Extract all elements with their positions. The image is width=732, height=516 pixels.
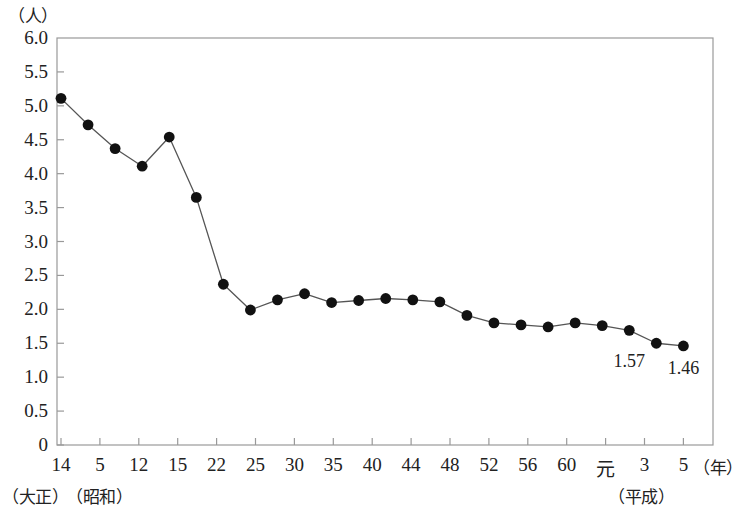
x-axis-unit-label: （年）: [693, 454, 732, 479]
data-point-marker: [651, 338, 662, 349]
y-axis-tick-label: 6.0: [0, 27, 48, 49]
data-point-annotation: 1.57: [614, 351, 646, 372]
x-axis-tick-label: 15: [168, 454, 187, 476]
data-point-marker: [191, 192, 202, 203]
data-point-marker: [516, 320, 527, 331]
data-point-marker: [326, 297, 337, 308]
x-axis-tick-label: 40: [363, 454, 382, 476]
era-label: （平成）: [608, 483, 674, 508]
x-axis-tick-label: 30: [285, 454, 304, 476]
data-point-marker: [353, 295, 364, 306]
data-point-marker: [434, 296, 445, 307]
y-axis-tick-label: 2.0: [0, 298, 48, 320]
y-axis-tick-label: 5.0: [0, 95, 48, 117]
plot-frame: [57, 38, 713, 445]
y-axis-tick-label: 4.5: [0, 129, 48, 151]
data-point-marker: [272, 294, 283, 305]
data-point-marker: [245, 305, 256, 316]
x-axis-tick-label: 5: [95, 454, 105, 476]
era-label: （大正）: [2, 483, 68, 508]
data-point-marker: [407, 294, 418, 305]
data-point-marker: [164, 132, 175, 143]
x-axis-tick-label: 48: [441, 454, 460, 476]
era-label: （昭和）: [66, 483, 132, 508]
data-point-marker: [543, 322, 554, 333]
y-axis-tick-label: 0.5: [0, 400, 48, 422]
data-point-marker: [380, 293, 391, 304]
data-point-annotation: 1.46: [668, 358, 700, 379]
y-axis-tick-label: 5.5: [0, 61, 48, 83]
y-axis-tick-label: 1.0: [0, 366, 48, 388]
x-axis-tick-label: 25: [246, 454, 265, 476]
x-axis-tick-label: 元: [596, 454, 615, 481]
data-point-marker: [624, 325, 635, 336]
data-point-marker: [597, 320, 608, 331]
x-axis-tick-label: 22: [207, 454, 226, 476]
data-line: [61, 98, 683, 346]
data-point-marker: [299, 288, 310, 299]
x-axis-tick-label: 56: [518, 454, 537, 476]
data-point-marker: [570, 318, 581, 329]
y-axis-tick-label: 3.0: [0, 231, 48, 253]
data-point-marker: [678, 341, 689, 352]
data-point-marker: [83, 119, 94, 130]
y-axis-tick-label: 4.0: [0, 163, 48, 185]
data-point-marker: [56, 93, 67, 104]
y-axis-tick-label: 0: [0, 434, 48, 456]
data-point-marker: [110, 143, 121, 154]
fertility-rate-chart: 6.05.55.04.54.03.53.02.52.01.51.00.50145…: [0, 0, 732, 516]
x-axis-tick-label: 60: [557, 454, 576, 476]
data-point-marker: [489, 318, 500, 329]
x-axis-tick-label: 3: [640, 454, 650, 476]
y-axis-tick-label: 1.5: [0, 332, 48, 354]
data-point-marker: [462, 310, 473, 321]
chart-canvas: [0, 0, 732, 516]
y-axis-unit-label: （人）: [8, 2, 58, 27]
y-axis-tick-label: 3.5: [0, 197, 48, 219]
x-axis-tick-label: 14: [52, 454, 71, 476]
data-point-marker: [218, 279, 229, 290]
x-axis-tick-label: 35: [324, 454, 343, 476]
x-axis-tick-label: 12: [129, 454, 148, 476]
x-axis-tick-label: 5: [679, 454, 689, 476]
y-axis-tick-label: 2.5: [0, 264, 48, 286]
data-point-marker: [137, 161, 148, 172]
x-axis-tick-label: 44: [402, 454, 421, 476]
x-axis-tick-label: 52: [479, 454, 498, 476]
